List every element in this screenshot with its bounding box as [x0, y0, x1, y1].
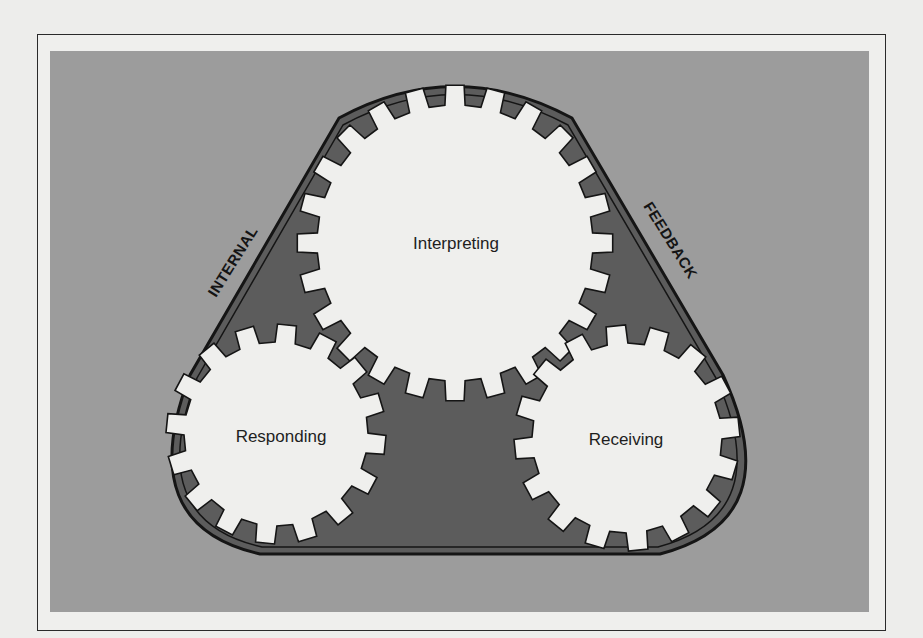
gear-diagram: INTERNAL FEEDBACK Interpreting Respondin… — [0, 0, 923, 638]
gear-label-receiving: Receiving — [589, 430, 664, 449]
gear-label-interpreting: Interpreting — [413, 234, 499, 253]
gear-label-responding: Responding — [236, 427, 327, 446]
